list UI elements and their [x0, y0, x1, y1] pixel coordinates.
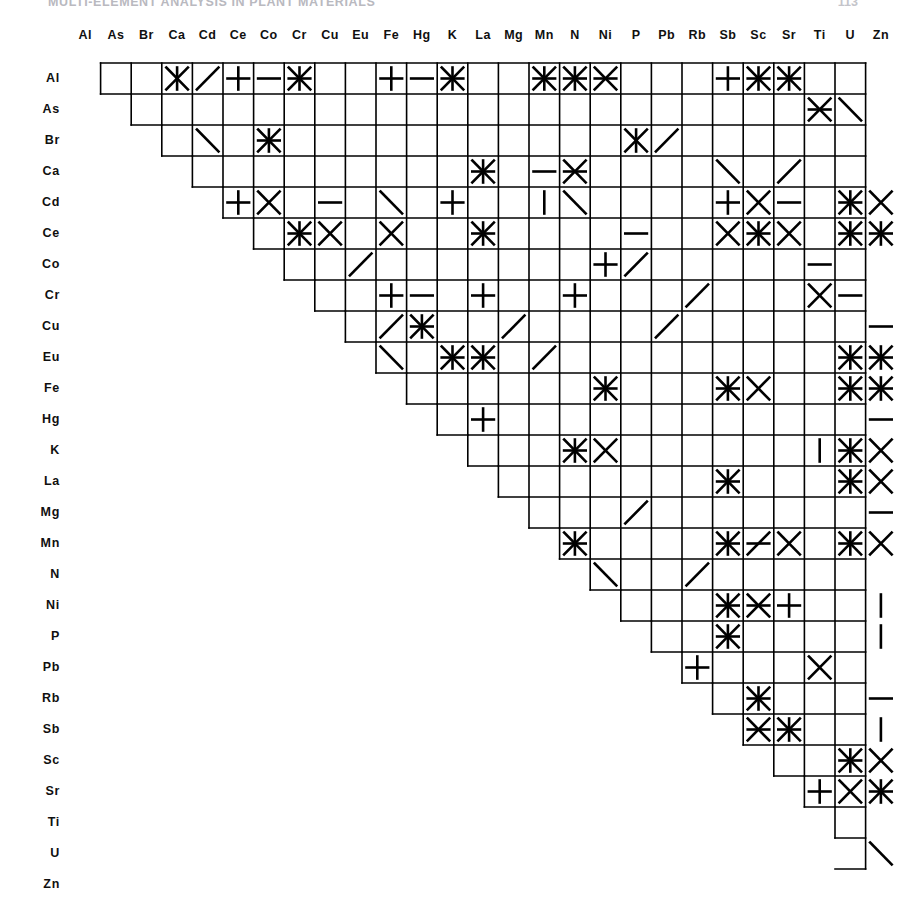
mark-br-cd-d2 — [197, 130, 219, 152]
mark-co-p-d1 — [625, 254, 647, 276]
mark-eu-fe-d2 — [381, 347, 403, 369]
matrix-grid — [0, 0, 903, 916]
mark-ca-sr-d1 — [778, 161, 800, 183]
mark-cu-fe-d1 — [381, 316, 403, 338]
mark-cd-fe-d2 — [381, 192, 403, 214]
mark-u-zn-d2 — [870, 843, 892, 865]
mark-cu-mg-d1 — [503, 316, 525, 338]
mark-al-cd-d1 — [197, 68, 219, 90]
mark-as-u-d2 — [840, 99, 862, 121]
mark-co-eu-d1 — [350, 254, 372, 276]
mark-cu-pb-d1 — [656, 316, 678, 338]
mark-br-pb-d1 — [656, 130, 678, 152]
mark-cd-n-d2 — [564, 192, 586, 214]
mark-n-ni-d2 — [595, 564, 617, 586]
mark-cr-rb-d1 — [687, 285, 709, 307]
element-pair-matrix-figure: AlAsBrCaCdCeCoCrCuEuFeHgKLaMgMnNNiPPbRbS… — [0, 0, 903, 916]
mark-eu-mn-d1 — [534, 347, 556, 369]
mark-mg-p-d1 — [625, 502, 647, 524]
mark-ca-sb-d2 — [717, 161, 739, 183]
mark-n-rb-d1 — [687, 564, 709, 586]
